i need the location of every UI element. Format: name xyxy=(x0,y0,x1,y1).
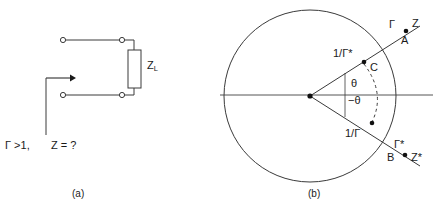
point-A-z-label: Z xyxy=(412,18,419,29)
point-B-letter-label: B xyxy=(387,152,394,163)
origin-point xyxy=(307,93,312,98)
panel-b-drawing xyxy=(0,0,435,210)
point-C-letter-label: C xyxy=(370,62,378,73)
point-C-dot xyxy=(362,60,367,65)
point-lower-inverse-value-label: 1/Γ xyxy=(345,128,360,139)
point-B-gamma-label: Γ* xyxy=(394,139,404,150)
point-B-dot xyxy=(403,153,408,158)
point-C-value-label: 1/Γ* xyxy=(333,48,353,59)
point-A-gamma-label: Γ xyxy=(389,19,395,30)
point-B-z-label: Z* xyxy=(411,152,422,163)
point-A-dot xyxy=(404,29,409,34)
figure-root: ZL Γ >1, Z = ? (a) θ −θ 1/Γ* C 1/ xyxy=(0,0,435,210)
angle-theta-positive-label: θ xyxy=(351,78,357,89)
point-lower-inverse-dot xyxy=(370,121,375,126)
point-A-letter-label: A xyxy=(401,35,408,46)
angle-theta-negative-label: −θ xyxy=(348,95,361,106)
panel-b-caption: (b) xyxy=(308,189,320,199)
